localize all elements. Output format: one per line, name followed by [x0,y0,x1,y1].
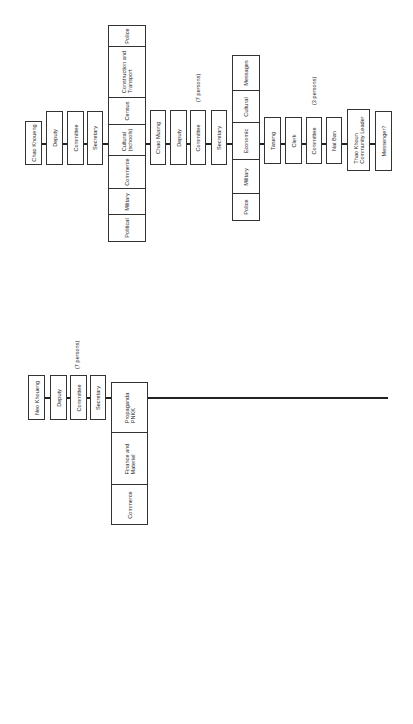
node-deputy: Deputy [46,111,63,165]
node-committee: Committee [190,110,206,165]
section-finance-materiel: Finance and Materiel [111,432,148,485]
section-construction-transport: Construction and Transport [108,46,146,98]
section-military: Military [108,188,146,215]
node-deputy: Deputy [50,375,67,420]
node-messenger: Messenger? [375,111,392,171]
committee-size-note: (3 persons) [311,77,317,105]
node-committee: Committee [70,375,87,420]
node-clerk: Clerk [285,117,302,164]
section-messages: Messages [232,55,260,91]
section-economic: Economic [232,122,260,160]
section-propaganda-pnkk: Propaganda PNKK [111,382,148,433]
node-taseng: Taseng [264,117,281,164]
section-census: Census [108,97,146,125]
section-military: Military [232,159,260,194]
node-secretary: Secretary [87,111,103,165]
node-nai-ban: Nai Ban [326,117,342,164]
node-thao-khoun: Thao Khoun Community Leader [347,109,370,171]
node-chao-khoueng: Chao Khoueng [25,121,42,165]
section-police: Police [232,193,260,221]
node-deputy: Deputy [170,110,187,165]
node-committee: Committee [67,111,84,165]
node-committee: Committee [306,117,322,164]
section-police: Police [108,25,146,47]
node-neo-khoueng: Neo Khoueng [28,375,45,420]
section-cultural-schools: Cultural (schools) [108,124,146,156]
node-secretary: Secretary [90,375,106,420]
section-political: Political [108,214,146,242]
committee-size-note: (7 persons) [195,74,201,102]
committee-size-note: (7 persons) [74,341,80,369]
section-cultural: Cultural [232,90,260,123]
node-secretary: Secretary [211,110,227,165]
node-chao-muong: Chao Muong [150,110,166,165]
section-commerce: Commerce [111,484,148,525]
section-commerce: Commerce [108,155,146,189]
